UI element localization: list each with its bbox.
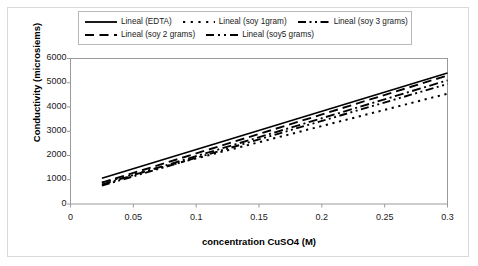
y-tick-label: 2000 <box>27 149 67 159</box>
y-tick-label: 5000 <box>27 76 67 86</box>
chart-figure: Lineal (EDTA) Lineal (soy 1gram) Lineal … <box>0 0 478 266</box>
y-tick-marks <box>67 59 71 205</box>
y-tick-label: 4000 <box>27 101 67 111</box>
x-tick-label: 0.15 <box>239 212 279 222</box>
plot-area <box>0 0 478 266</box>
y-tick-label: 0 <box>27 198 67 208</box>
x-axis-title: concentration CuSO4 (M) <box>70 236 448 247</box>
x-tick-label: 0.2 <box>302 212 342 222</box>
x-tick-marks <box>71 204 448 208</box>
y-tick-label: 1000 <box>27 173 67 183</box>
x-tick-label: 0 <box>51 212 91 222</box>
x-tick-label: 0.1 <box>176 212 216 222</box>
x-tick-label: 0.25 <box>365 212 405 222</box>
y-tick-label: 3000 <box>27 125 67 135</box>
y-tick-label: 6000 <box>27 52 67 62</box>
x-tick-label: 0.05 <box>113 212 153 222</box>
x-tick-label: 0.3 <box>428 212 468 222</box>
